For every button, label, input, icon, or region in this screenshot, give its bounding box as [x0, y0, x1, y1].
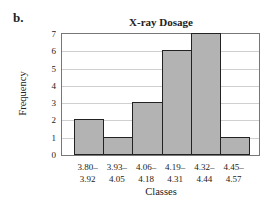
x-axis-label: Classes — [61, 186, 261, 197]
histogram-bar — [162, 50, 192, 155]
plot-area — [61, 33, 260, 156]
histogram-bar — [74, 119, 104, 155]
y-tick-label: 6 — [46, 46, 56, 56]
y-tick-label: 0 — [46, 150, 56, 160]
histogram-bar — [191, 33, 221, 155]
y-tick-label: 2 — [46, 115, 56, 125]
y-tick-label: 7 — [46, 29, 56, 39]
y-tick-label: 1 — [46, 133, 56, 143]
x-tick-label: 4.19–4.31 — [159, 161, 191, 185]
x-tick-label: 3.80–3.92 — [72, 161, 104, 185]
gridline — [62, 69, 259, 70]
histogram-bar — [132, 102, 162, 155]
x-tick-label: 4.45–4.57 — [218, 161, 250, 185]
histogram-bar — [103, 137, 133, 155]
histogram-bar — [220, 137, 250, 155]
gridline — [62, 51, 259, 52]
y-tick-label: 3 — [46, 98, 56, 108]
gridline — [62, 86, 259, 87]
x-tick-label: 4.06–4.18 — [130, 161, 162, 185]
part-label: b. — [13, 10, 23, 26]
x-tick-label: 4.32–4.44 — [188, 161, 220, 185]
chart-title: X-ray Dosage — [61, 16, 261, 28]
y-tick-label: 5 — [46, 64, 56, 74]
y-axis-label: Frequency — [17, 64, 28, 124]
y-tick-label: 4 — [46, 81, 56, 91]
x-tick-label: 3.93–4.05 — [101, 161, 133, 185]
